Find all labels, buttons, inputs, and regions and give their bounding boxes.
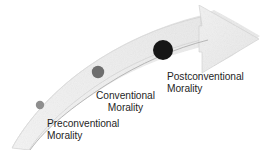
moral-development-diagram: Preconventional Morality Conventional Mo… [0,0,262,152]
stage-label-postconventional-line2: Morality [167,83,244,95]
stage-label-conventional-line2: Morality [92,102,159,114]
stage-marker-preconventional [36,101,44,109]
stage-label-preconventional: Preconventional Morality [47,118,119,142]
stage-label-postconventional-line1: Postconventional [167,71,244,82]
stage-label-preconventional-line2: Morality [47,130,119,142]
stage-label-conventional: Conventional Morality [92,90,159,114]
stage-label-postconventional: Postconventional Morality [167,71,244,95]
stage-label-preconventional-line1: Preconventional [47,118,119,129]
stage-marker-postconventional [153,40,173,60]
arrowhead-shape [199,5,259,73]
stage-label-conventional-line1: Conventional [96,90,155,101]
stage-marker-conventional [92,66,104,78]
